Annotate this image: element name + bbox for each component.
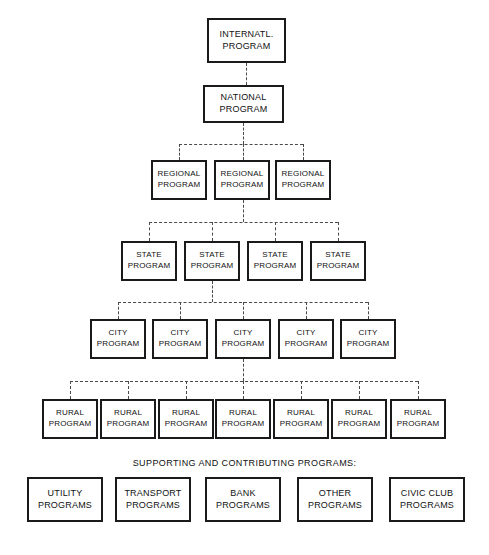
node-line-2: PROGRAM [397,419,440,430]
node-line-1: CITY [170,328,189,339]
connector-city-drop-4 [306,302,307,319]
node-line-1: RURAL [172,408,200,419]
connector-regional-drop-1 [179,144,180,160]
node-line-1: CITY [108,328,127,339]
node-state-program-2[interactable]: STATE PROGRAM [184,241,240,281]
connector-state-bus [149,222,338,223]
node-line-1: INTERNATL. [220,29,274,41]
node-transport-programs[interactable]: TRANSPORT PROGRAMS [115,477,191,522]
node-regional-program-3[interactable]: REGIONAL PROGRAM [275,160,331,200]
node-civic-club-programs[interactable]: CIVIC CLUB PROGRAMS [389,477,465,522]
node-line-1: TRANSPORT [124,488,181,500]
node-line-1: RURAL [345,408,373,419]
connector-international-to-national [246,63,247,85]
node-line-1: STATE [199,250,225,261]
node-line-2: PROGRAM [222,419,265,430]
connector-city-center-drop [243,359,244,381]
node-line-2: PROGRAM [49,419,92,430]
connector-regional-bus [179,144,303,145]
node-line-2: PROGRAM [285,339,328,350]
connector-rural-drop-6 [359,381,360,399]
node-rural-program-2[interactable]: RURAL PROGRAM [100,399,156,439]
node-line-1: CITY [296,328,315,339]
node-state-program-4[interactable]: STATE PROGRAM [310,241,366,281]
node-line-1: RURAL [404,408,432,419]
node-line-1: BANK [230,488,255,500]
node-city-program-2[interactable]: CITY PROGRAM [152,319,208,359]
node-line-2: PROGRAMS [308,500,362,512]
node-city-program-5[interactable]: CITY PROGRAM [340,319,396,359]
node-line-1: STATE [262,250,288,261]
node-line-2: PROGRAM [159,339,202,350]
node-rural-program-6[interactable]: RURAL PROGRAM [331,399,387,439]
connector-regional-drop-3 [303,144,304,160]
node-line-2: PROGRAMS [400,500,454,512]
connector-national-drop [243,123,244,144]
node-line-2: PROGRAM [254,261,297,272]
connector-city-drop-3 [243,302,244,319]
connector-rural-drop-4 [243,381,244,399]
node-utility-programs[interactable]: UTILITY PROGRAMS [27,477,103,522]
node-national-program[interactable]: NATIONAL PROGRAM [203,85,284,123]
node-line-2: PROGRAM [338,419,381,430]
node-line-2: PROGRAM [223,41,271,53]
node-line-1: REGIONAL [158,169,201,180]
node-line-2: PROGRAM [191,261,234,272]
connector-rural-drop-7 [418,381,419,399]
connector-rural-drop-2 [128,381,129,399]
supporting-section-heading: SUPPORTING AND CONTRIBUTING PROGRAMS: [0,458,489,468]
node-line-2: PROGRAM [347,339,390,350]
connector-regional-drop-2 [243,144,244,160]
node-line-1: UTILITY [48,488,83,500]
node-city-program-1[interactable]: CITY PROGRAM [90,319,146,359]
node-line-2: PROGRAM [107,419,150,430]
node-regional-program-1[interactable]: REGIONAL PROGRAM [151,160,207,200]
connector-state-drop-2 [212,222,213,241]
node-other-programs[interactable]: OTHER PROGRAMS [297,477,373,522]
org-chart-diagram: INTERNATL. PROGRAM NATIONAL PROGRAM REGI… [0,0,489,555]
node-line-2: PROGRAM [165,419,208,430]
node-regional-program-2[interactable]: REGIONAL PROGRAM [214,160,270,200]
connector-state-drop-4 [338,222,339,241]
node-line-2: PROGRAMS [216,500,270,512]
connector-state-center-drop [212,281,213,302]
connector-city-drop-5 [368,302,369,319]
node-line-1: OTHER [319,488,352,500]
node-line-2: PROGRAMS [38,500,92,512]
node-state-program-1[interactable]: STATE PROGRAM [121,241,177,281]
connector-regional-center-drop [243,200,244,222]
node-line-2: PROGRAM [158,180,201,191]
node-line-2: PROGRAM [222,339,265,350]
node-line-1: CIVIC CLUB [401,488,454,500]
node-line-2: PROGRAMS [126,500,180,512]
node-bank-programs[interactable]: BANK PROGRAMS [205,477,281,522]
node-state-program-3[interactable]: STATE PROGRAM [247,241,303,281]
node-city-program-4[interactable]: CITY PROGRAM [278,319,334,359]
node-line-1: RURAL [114,408,142,419]
connector-rural-drop-3 [186,381,187,399]
node-line-1: RURAL [287,408,315,419]
node-city-program-3[interactable]: CITY PROGRAM [215,319,271,359]
connector-rural-drop-5 [301,381,302,399]
node-rural-program-7[interactable]: RURAL PROGRAM [390,399,446,439]
node-line-2: PROGRAM [280,419,323,430]
node-line-2: PROGRAM [221,180,264,191]
connector-city-drop-1 [118,302,119,319]
node-line-1: STATE [136,250,162,261]
node-line-1: RURAL [229,408,257,419]
node-line-2: PROGRAM [97,339,140,350]
connector-rural-bus [70,381,418,382]
node-line-2: PROGRAM [317,261,360,272]
node-rural-program-3[interactable]: RURAL PROGRAM [158,399,214,439]
node-rural-program-4[interactable]: RURAL PROGRAM [215,399,271,439]
node-line-1: REGIONAL [282,169,325,180]
connector-state-drop-1 [149,222,150,241]
node-line-1: CITY [233,328,252,339]
node-international-program[interactable]: INTERNATL. PROGRAM [207,18,286,63]
node-line-1: CITY [358,328,377,339]
node-rural-program-1[interactable]: RURAL PROGRAM [42,399,98,439]
node-line-2: PROGRAM [282,180,325,191]
node-rural-program-5[interactable]: RURAL PROGRAM [273,399,329,439]
connector-rural-drop-1 [70,381,71,399]
node-line-1: RURAL [56,408,84,419]
